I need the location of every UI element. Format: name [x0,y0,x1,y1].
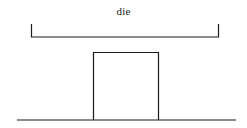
die-diagram-graphic [0,0,247,128]
die-label: die [0,5,247,17]
die-block [94,53,159,121]
die-width-bracket [32,24,219,37]
die-diagram: die [0,0,247,128]
